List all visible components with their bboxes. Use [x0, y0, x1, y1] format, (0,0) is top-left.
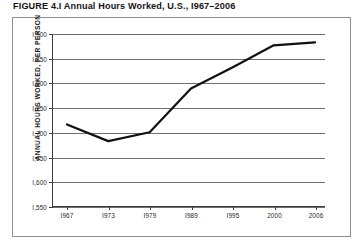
- y-tick-label: I,900: [32, 31, 47, 38]
- figure-frame: ANNUAL HOURS WORKED, PER PERSON I,550I,6…: [12, 17, 351, 237]
- y-tick-label: I,550: [32, 204, 47, 211]
- x-tick-label: I967: [61, 212, 74, 219]
- y-tick-label: I,800: [32, 80, 47, 87]
- y-tick-label: I,650: [32, 154, 47, 161]
- x-tick-mark: [316, 206, 317, 210]
- x-tick-label: 2006: [309, 212, 324, 219]
- x-tick-mark: [150, 206, 151, 210]
- y-tick-label: I,600: [32, 179, 47, 186]
- y-tick-label: I,750: [32, 105, 47, 112]
- y-tick-mark: [49, 207, 53, 208]
- x-tick-label: I979: [144, 212, 157, 219]
- x-tick-mark: [233, 206, 234, 210]
- x-tick-label: I995: [227, 212, 240, 219]
- plot-area: I,550I,600I,650I,700I,750I,800I,850I,900…: [52, 34, 325, 207]
- gridline: [53, 207, 325, 208]
- x-tick-label: I989: [185, 212, 198, 219]
- x-tick-mark: [192, 206, 193, 210]
- figure-container: FIGURE 4.I Annual Hours Worked, U.S., I9…: [0, 0, 361, 249]
- x-tick-mark: [67, 206, 68, 210]
- line-series: [53, 34, 325, 206]
- x-tick-label: 2000: [267, 212, 282, 219]
- x-tick-label: I973: [102, 212, 115, 219]
- x-tick-mark: [109, 206, 110, 210]
- figure-title: FIGURE 4.I Annual Hours Worked, U.S., I9…: [13, 1, 353, 11]
- x-tick-mark: [275, 206, 276, 210]
- y-tick-label: I,850: [32, 55, 47, 62]
- series-polyline: [67, 42, 315, 141]
- y-tick-label: I,700: [32, 129, 47, 136]
